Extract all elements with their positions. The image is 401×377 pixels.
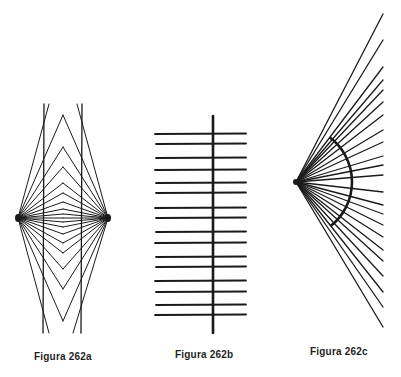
- chevron-line: [18, 218, 63, 289]
- fan-apex: [293, 179, 299, 185]
- chevron-line: [63, 183, 108, 218]
- horizontal-line: [156, 158, 246, 159]
- chevron-line: [18, 147, 63, 218]
- chevron-line: [18, 218, 63, 253]
- fan-vertex: [15, 214, 21, 222]
- figure-262a-drawing: [15, 104, 111, 333]
- ray-line: [296, 14, 383, 182]
- ray-line: [296, 102, 383, 182]
- ray-line: [296, 80, 383, 182]
- horizontal-line: [155, 243, 246, 244]
- horizontal-line: [155, 208, 246, 209]
- chevron-line: [18, 218, 63, 321]
- fan-vertex: [105, 214, 111, 222]
- chevron-line: [63, 218, 108, 289]
- figure-262c-drawing: [293, 14, 383, 327]
- horizontal-line: [156, 292, 246, 293]
- caption-figure-262b: Figura 262b: [175, 349, 233, 360]
- chevron-line: [18, 183, 63, 218]
- caption-figure-262a: Figura 262a: [34, 351, 92, 362]
- horizontal-line: [155, 281, 246, 282]
- outer-diagonal-line: [73, 218, 108, 333]
- ray-line: [296, 40, 383, 182]
- horizontal-line: [156, 218, 246, 219]
- caption-figure-262c: Figura 262c: [310, 346, 368, 357]
- horizontal-line: [156, 267, 246, 268]
- vertical-line: [43, 104, 44, 333]
- horizontal-line: [156, 257, 246, 258]
- chevron-line: [63, 218, 108, 321]
- chevron-line: [63, 218, 108, 253]
- chevron-line: [18, 115, 63, 218]
- optical-illusion-figures: [0, 0, 401, 377]
- chevron-line: [63, 115, 108, 218]
- chevron-line: [63, 147, 108, 218]
- figure-262b-drawing: [155, 116, 246, 333]
- horizontal-line: [156, 305, 246, 306]
- horizontal-line: [155, 134, 246, 135]
- horizontal-line: [156, 183, 246, 184]
- horizontal-line: [156, 144, 246, 145]
- horizontal-line: [155, 315, 246, 316]
- horizontal-line: [156, 193, 246, 194]
- horizontal-line: [155, 170, 246, 171]
- vertical-line: [81, 104, 82, 333]
- ray-line: [296, 182, 383, 307]
- horizontal-line: [156, 232, 246, 233]
